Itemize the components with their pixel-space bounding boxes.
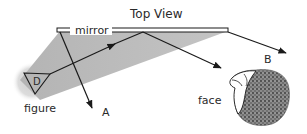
ray-b-label: B: [264, 53, 272, 66]
figure-label: figure: [24, 102, 56, 115]
face-head-icon: [230, 70, 290, 126]
figure-letter: D: [33, 76, 41, 87]
mirror-label: mirror: [75, 24, 109, 37]
face-label: face: [198, 94, 222, 107]
ray-a-label: A: [102, 106, 110, 119]
reflection-cone: [20, 31, 228, 100]
ray-b: [228, 32, 286, 53]
diagram-title: Top View: [129, 7, 183, 21]
mirror-top-view-diagram: mirror Top View A B D figure face: [0, 0, 307, 134]
